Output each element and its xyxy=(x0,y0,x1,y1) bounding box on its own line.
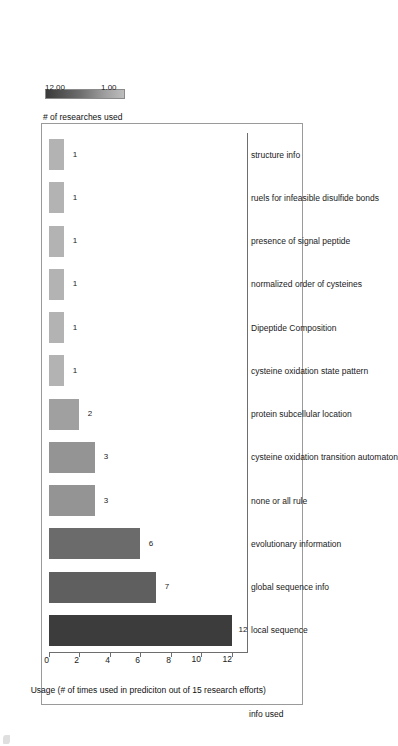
value-axis-tick-label: 8 xyxy=(166,656,171,665)
bar-slot: 1 xyxy=(49,263,247,306)
bar-value-label: 2 xyxy=(88,410,92,418)
bar-value-label: 1 xyxy=(73,280,77,288)
category-tick-label: evolutionary information xyxy=(251,540,341,549)
bar-slot: 1 xyxy=(49,133,247,176)
value-axis-tick-mark xyxy=(201,653,202,657)
bar-value-label: 3 xyxy=(103,497,107,505)
bar-value-label: 3 xyxy=(103,453,107,461)
bar-slot: 1 xyxy=(49,176,247,219)
bar-value-label: 1 xyxy=(73,367,77,375)
legend-tick-max: 12.00 xyxy=(45,84,65,92)
bar[interactable] xyxy=(49,312,64,343)
value-axis-ticks: 024681012 xyxy=(49,653,247,723)
bar[interactable] xyxy=(49,226,64,257)
bar-slot: 2 xyxy=(49,393,247,436)
bar-value-label: 1 xyxy=(73,324,77,332)
bar-slot: 3 xyxy=(49,479,247,522)
bar[interactable] xyxy=(49,442,95,473)
bar[interactable] xyxy=(49,269,64,300)
bar[interactable] xyxy=(49,528,140,559)
category-axis-line xyxy=(247,133,248,653)
legend-title: # of researches used xyxy=(43,113,122,122)
value-axis-tick-label: 4 xyxy=(105,656,110,665)
bar[interactable] xyxy=(49,485,95,516)
value-axis-tick-label: 0 xyxy=(44,656,49,665)
bar[interactable] xyxy=(49,355,64,386)
bar-value-label: 1 xyxy=(73,151,77,159)
category-tick-label: cysteine oxidation transition automaton xyxy=(251,453,398,462)
bar[interactable] xyxy=(49,615,232,646)
bar-slot: 1 xyxy=(49,306,247,349)
category-tick-label: ruels for infeasible disulfide bonds xyxy=(251,194,379,203)
legend: # of researches used 12.00 1.00 xyxy=(43,29,163,115)
bar[interactable] xyxy=(49,139,64,170)
bar-slot: 7 xyxy=(49,566,247,609)
value-axis-tick-label: 2 xyxy=(75,656,80,665)
bar[interactable] xyxy=(49,572,156,603)
value-axis-tick-mark xyxy=(140,653,141,657)
bar-slot: 12 xyxy=(49,609,247,652)
value-axis-tick-label: 12 xyxy=(222,656,231,665)
bar[interactable] xyxy=(49,399,79,430)
legend-tick-min: 1.00 xyxy=(101,84,117,92)
bar-series: 1276332111111 xyxy=(49,133,247,652)
bar-slot: 1 xyxy=(49,220,247,263)
category-axis-title-text: info used xyxy=(249,710,284,719)
scan-artifact xyxy=(3,735,10,744)
category-tick-label: presence of signal peptide xyxy=(251,237,350,246)
bar-slot: 6 xyxy=(49,522,247,565)
value-axis-tick-label: 6 xyxy=(136,656,141,665)
value-axis-line xyxy=(49,652,247,653)
bar-value-label: 6 xyxy=(149,540,153,548)
value-axis-tick-mark xyxy=(79,653,80,657)
rotated-chart-stage: Usage (# of times used in prediciton out… xyxy=(27,23,317,723)
bar-value-label: 1 xyxy=(73,237,77,245)
category-tick-label: Dipeptide Composition xyxy=(251,323,337,332)
bar[interactable] xyxy=(49,182,64,213)
bar-value-label: 7 xyxy=(164,583,168,591)
bar-value-label: 12 xyxy=(238,626,247,634)
category-axis-title: info used xyxy=(249,133,263,652)
value-axis-tick-label: 10 xyxy=(192,656,201,665)
bar-value-label: 1 xyxy=(73,194,77,202)
category-tick-label: protein subcellular location xyxy=(251,410,352,419)
bar-slot: 3 xyxy=(49,436,247,479)
category-tick-label: normalized order of cysteines xyxy=(251,280,362,289)
category-tick-label: cysteine oxidation state pattern xyxy=(251,367,368,376)
bar-slot: 1 xyxy=(49,349,247,392)
